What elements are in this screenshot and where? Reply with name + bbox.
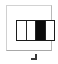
resize-handle-icon[interactable]: [31, 54, 37, 60]
column-cell-2[interactable]: [27, 21, 37, 40]
resize-handle-horizontal-stroke: [31, 58, 37, 60]
panel-layout-button[interactable]: [6, 5, 52, 51]
column-layout-icon[interactable]: [16, 20, 55, 41]
column-cell-4[interactable]: [46, 21, 55, 40]
column-cell-1[interactable]: [17, 21, 27, 40]
column-cell-3-selected[interactable]: [36, 21, 46, 40]
screenshot-root: [0, 0, 58, 64]
